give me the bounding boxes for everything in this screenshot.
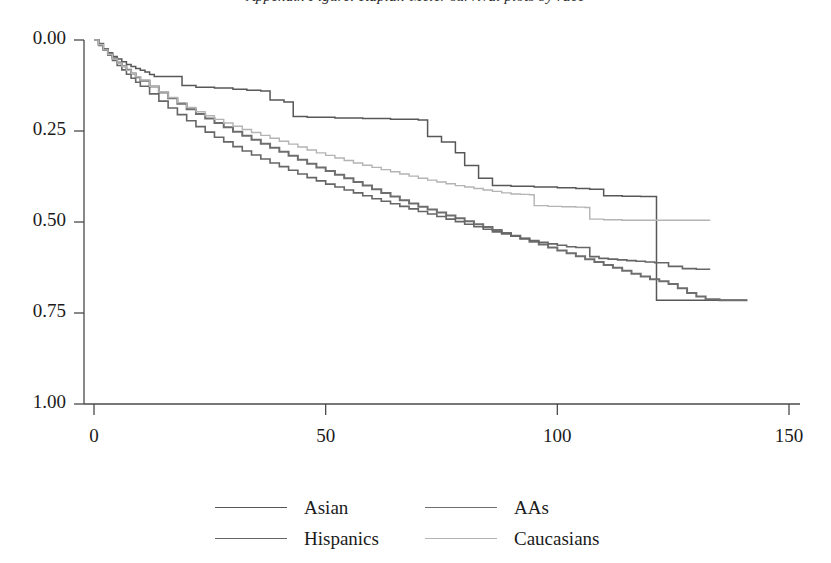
x-tick-label-2: 100 [517,425,597,447]
chart-legend: AsianAAsHispanicsCaucasians [215,492,635,554]
series-line-aas [94,40,747,300]
series-lines [94,40,747,300]
series-line-hispanics [94,40,710,269]
y-tick-label-0: 1.00 [8,391,66,413]
legend-item-asian[interactable]: Asian [215,497,425,519]
legend-item-hispanics[interactable]: Hispanics [215,528,425,550]
legend-swatch-aas [425,507,497,508]
legend-row-1: HispanicsCaucasians [215,523,635,554]
y-tick-label-4: 0.00 [8,27,66,49]
legend-swatch-asian [215,507,287,508]
legend-row-0: AsianAAs [215,492,635,523]
legend-swatch-hispanics [215,538,287,539]
x-tick-label-3: 150 [749,425,829,447]
y-tick-label-3: 0.25 [8,118,66,140]
y-tick-label-2: 0.50 [8,209,66,231]
y-tick-label-1: 0.75 [8,300,66,322]
legend-label-hispanics: Hispanics [304,528,379,550]
legend-item-aas[interactable]: AAs [425,497,635,519]
series-line-asian [94,40,747,300]
legend-label-caucasians: Caucasians [514,528,599,550]
axis-lines [74,40,800,415]
legend-swatch-caucasians [425,538,497,539]
y-tick-marks [74,40,84,404]
legend-label-asian: Asian [304,497,348,519]
legend-item-caucasians[interactable]: Caucasians [425,528,635,550]
legend-label-aas: AAs [514,497,549,519]
x-tick-marks [94,404,789,415]
plot-area [0,0,831,563]
series-line-caucasians [94,40,710,220]
x-tick-label-1: 50 [286,425,366,447]
x-tick-label-0: 0 [54,425,134,447]
survival-curve-figure: Appendix Figure: Kaplan-Meier survival p… [0,0,831,563]
